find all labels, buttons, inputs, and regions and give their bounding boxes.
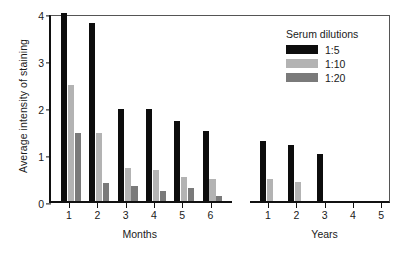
x-tick-label: 5: [179, 209, 185, 221]
x-tick-label: 5: [378, 209, 384, 221]
legend-item: 1:5: [286, 44, 358, 55]
bar: [216, 196, 222, 201]
y-tick-label: 0: [32, 199, 44, 211]
y-axis-label: Average intensity of staining: [17, 11, 29, 201]
legend-swatch: [286, 45, 318, 54]
bar: [288, 145, 294, 201]
bar: [68, 85, 74, 201]
bar: [125, 168, 131, 201]
x-tick: [69, 203, 70, 208]
y-tick-label: 2: [32, 105, 44, 117]
legend-title: Serum dilutions: [286, 28, 358, 40]
x-tick: [182, 203, 183, 208]
bar: [181, 177, 187, 201]
bar: [118, 109, 124, 201]
bar: [209, 179, 215, 201]
y-tick-label: 4: [32, 11, 44, 23]
x-tick: [325, 203, 326, 208]
bar: [89, 23, 95, 201]
x-axis-group-label: Months: [123, 228, 157, 240]
bar: [153, 170, 159, 201]
bar: [146, 109, 152, 201]
x-tick-label: 4: [151, 209, 157, 221]
axis-break: [232, 200, 250, 208]
x-tick-label: 3: [123, 209, 129, 221]
x-tick: [154, 203, 155, 208]
x-tick-label: 4: [350, 209, 356, 221]
legend-entries: 1:51:101:20: [286, 44, 358, 83]
x-tick-label: 1: [66, 209, 72, 221]
bar: [267, 179, 273, 201]
chart-figure: Average intensity of staining 01234 1234…: [0, 0, 409, 259]
legend-label: 1:20: [325, 72, 345, 84]
bar: [174, 121, 180, 201]
x-tick: [353, 203, 354, 208]
x-tick: [97, 203, 98, 208]
x-tick-label: 2: [94, 209, 100, 221]
y-tick: 0: [32, 197, 51, 210]
bar: [61, 13, 67, 201]
x-tick: [211, 203, 212, 208]
y-tick: 4: [32, 9, 51, 22]
bar: [103, 183, 109, 201]
x-tick: [296, 203, 297, 208]
x-axis-group-label: Years: [311, 228, 337, 240]
bar: [96, 133, 102, 201]
bar: [188, 188, 194, 201]
y-tick-label: 3: [32, 58, 44, 70]
bar: [317, 154, 323, 201]
y-tick: 3: [32, 56, 51, 69]
legend-swatch: [286, 59, 318, 68]
y-tick: 2: [32, 103, 51, 116]
legend-item: 1:20: [286, 72, 358, 83]
legend-item: 1:10: [286, 58, 358, 69]
bar: [131, 186, 137, 201]
bar: [295, 182, 301, 201]
legend-label: 1:5: [325, 44, 340, 56]
bar: [160, 191, 166, 201]
bar: [75, 133, 81, 201]
x-tick-label: 1: [265, 209, 271, 221]
legend: Serum dilutions 1:51:101:20: [286, 28, 358, 86]
legend-label: 1:10: [325, 58, 345, 70]
bar: [203, 131, 209, 202]
x-tick: [381, 203, 382, 208]
y-tick-label: 1: [32, 152, 44, 164]
x-tick-label: 2: [293, 209, 299, 221]
bar: [260, 141, 266, 201]
x-tick-label: 6: [208, 209, 214, 221]
y-tick: 1: [32, 150, 51, 163]
x-tick-label: 3: [322, 209, 328, 221]
x-tick: [126, 203, 127, 208]
x-tick: [268, 203, 269, 208]
legend-swatch: [286, 73, 318, 82]
y-tick-mark: [46, 204, 51, 205]
